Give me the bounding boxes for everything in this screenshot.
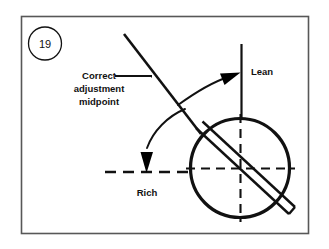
figure-number-text: 19 xyxy=(39,38,51,50)
correct-label-line3: midpoint xyxy=(79,96,120,107)
rich-label: Rich xyxy=(137,187,158,198)
figure-canvas: 19 Corre xyxy=(0,0,329,249)
figure-19-diagram: 19 Corre xyxy=(0,0,329,249)
figure-number-badge-icon: 19 xyxy=(29,27,62,60)
correct-label-line2: adjustment xyxy=(74,83,126,94)
lean-label: Lean xyxy=(251,66,273,77)
correct-label-line1: Correct xyxy=(82,70,117,81)
